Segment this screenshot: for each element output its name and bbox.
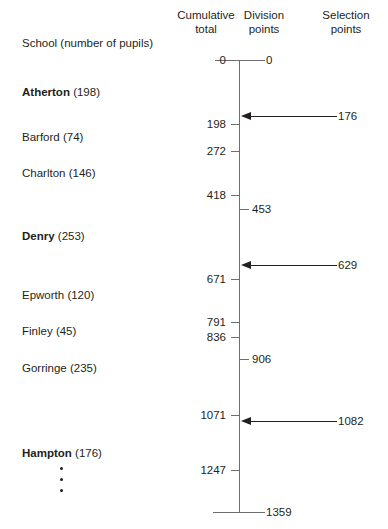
tick-division-906 <box>240 359 249 360</box>
school-pupils-denry: (253) <box>58 230 85 242</box>
school-row-charlton: Charlton (146) <box>22 167 96 180</box>
arrow-shaft <box>248 116 337 117</box>
school-name-gorringe: Gorringe <box>22 362 67 374</box>
header-division-line2: points <box>231 22 297 36</box>
arrow-shaft <box>248 265 337 266</box>
label-cumulative-671: 671 <box>168 273 226 285</box>
label-division-1359: 1359 <box>266 506 292 518</box>
school-pupils-atherton: (198) <box>73 86 100 98</box>
tick-cumulative-272 <box>231 151 240 152</box>
school-pupils-gorringe: (235) <box>70 362 97 374</box>
label-cumulative-836: 836 <box>168 331 226 343</box>
label-selection-176: 176 <box>338 110 357 122</box>
school-pupils-hampton: (176) <box>75 447 102 459</box>
school-name-finley: Finley <box>22 325 53 337</box>
tick-cumulative-836 <box>231 337 240 338</box>
tick-cumulative-198 <box>231 124 240 125</box>
school-row-epworth: Epworth (120) <box>22 289 94 302</box>
school-row-barford: Barford (74) <box>22 131 83 144</box>
header-division-line1: Division <box>231 8 297 22</box>
school-row-atherton: Atherton (198) <box>22 86 100 99</box>
header-selection-points: Selection points <box>311 8 381 36</box>
school-pupils-barford: (74) <box>63 131 83 143</box>
school-pupils-charlton: (146) <box>69 167 96 179</box>
school-pupils-epworth: (120) <box>67 289 94 301</box>
school-row-finley: Finley (45) <box>22 325 76 338</box>
cumulative-axis-line <box>239 60 240 513</box>
school-pupils-finley: (45) <box>56 325 76 337</box>
tick-cumulative-1071 <box>231 415 240 416</box>
selection-arrow-1082 <box>241 416 337 427</box>
axis-top-cap-right <box>240 60 265 61</box>
label-cumulative-0: 0 <box>168 54 226 66</box>
label-cumulative-198: 198 <box>168 118 226 130</box>
arrow-shaft <box>248 421 337 422</box>
school-row-hampton: Hampton (176) <box>22 447 102 460</box>
label-division-0: 0 <box>266 54 272 66</box>
school-row-denry: Denry (253) <box>22 230 85 243</box>
tick-division-453 <box>240 209 249 210</box>
selection-arrow-629 <box>241 260 337 271</box>
school-name-epworth: Epworth <box>22 289 64 301</box>
school-name-barford: Barford <box>22 131 60 143</box>
school-name-charlton: Charlton <box>22 167 65 179</box>
label-selection-1082: 1082 <box>338 415 364 427</box>
header-division-points: Division points <box>231 8 297 36</box>
tick-cumulative-671 <box>231 279 240 280</box>
axis-bottom-cap-right <box>240 512 265 513</box>
header-school: School (number of pupils) <box>22 36 153 50</box>
ellipsis-dot <box>60 478 63 481</box>
school-row-gorringe: Gorringe (235) <box>22 362 97 375</box>
header-selection-line1: Selection <box>311 8 381 22</box>
label-cumulative-272: 272 <box>168 145 226 157</box>
school-name-denry: Denry <box>22 230 55 242</box>
school-name-atherton: Atherton <box>22 86 70 98</box>
header-selection-line2: points <box>311 22 381 36</box>
label-cumulative-1071: 1071 <box>168 409 226 421</box>
label-cumulative-1247: 1247 <box>168 464 226 476</box>
tick-cumulative-1247 <box>231 470 240 471</box>
label-cumulative-791: 791 <box>168 316 226 328</box>
ellipsis-dot <box>60 489 63 492</box>
ellipsis-dot <box>60 467 63 470</box>
systematic-sampling-diagram: School (number of pupils) Cumulative tot… <box>0 0 388 529</box>
vertical-ellipsis <box>60 467 63 500</box>
label-division-906: 906 <box>252 353 271 365</box>
label-division-453: 453 <box>252 203 271 215</box>
school-name-hampton: Hampton <box>22 447 72 459</box>
tick-cumulative-418 <box>231 195 240 196</box>
selection-arrow-176 <box>241 111 337 122</box>
axis-bottom-cap-left <box>213 512 240 513</box>
tick-cumulative-791 <box>231 322 240 323</box>
label-selection-629: 629 <box>338 259 357 271</box>
label-cumulative-418: 418 <box>168 189 226 201</box>
